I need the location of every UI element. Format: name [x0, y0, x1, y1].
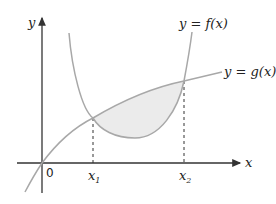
f-curve-label: y = f(x) [178, 16, 228, 31]
x1-label: x1 [88, 168, 100, 185]
area-between-curves-diagram: y x 0 x1 x2 y = f(x) y = g(x) [0, 0, 276, 204]
origin-label: 0 [46, 166, 54, 180]
x2-label: x2 [179, 168, 191, 185]
g-curve-label: y = g(x) [223, 64, 276, 79]
y-axis-label: y [27, 15, 36, 30]
x-axis-label: x [245, 155, 253, 170]
